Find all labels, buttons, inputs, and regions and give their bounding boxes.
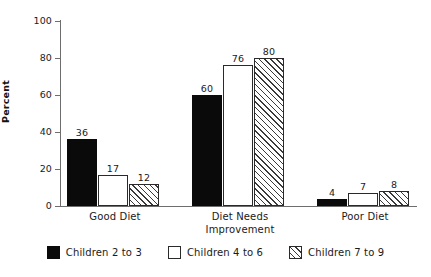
bar-good-diet-children-4-to-6[interactable]: 17 [98, 175, 128, 206]
bar-diet-needs-improvement-children-7-to-9[interactable]: 80 [254, 58, 284, 206]
bar-poor-diet-children-2-to-3[interactable]: 4 [317, 199, 347, 206]
bar-value-label: 60 [201, 84, 213, 94]
bar-good-diet-children-7-to-9[interactable]: 12 [129, 184, 159, 206]
open-swatch-icon [168, 246, 181, 259]
legend-label: Children 4 to 6 [187, 247, 263, 258]
x-axis-line [60, 206, 417, 207]
y-tick-label: 40 [18, 127, 52, 137]
plot-area: 36 17 12 60 76 80 4 [61, 21, 416, 206]
bar-value-label: 7 [360, 182, 366, 192]
x-axis-label-poor-diet: Poor Diet [317, 211, 413, 224]
bar-value-label: 8 [391, 180, 397, 190]
bar-value-label: 80 [263, 47, 275, 57]
bar-value-label: 36 [76, 128, 88, 138]
bar-value-label: 12 [138, 173, 150, 183]
x-axis-label-diet-needs-improvement: Diet Needs Improvement [192, 211, 288, 236]
bar-value-label: 4 [329, 188, 335, 198]
legend-label: Children 7 to 9 [308, 247, 384, 258]
y-tick-label: 20 [18, 164, 52, 174]
bar-poor-diet-children-7-to-9[interactable]: 8 [379, 191, 409, 206]
x-axis-label-good-diet: Good Diet [67, 211, 163, 224]
bar-poor-diet-children-4-to-6[interactable]: 7 [348, 193, 378, 206]
chart-legend: Children 2 to 3 Children 4 to 6 Children… [0, 246, 431, 259]
y-tick-label: 80 [18, 53, 52, 63]
legend-item-children-7-to-9[interactable]: Children 7 to 9 [289, 246, 384, 259]
x-axis-label-line: Poor Diet [317, 211, 413, 224]
bar-group-poor-diet: 4 7 8 [317, 21, 413, 206]
bar-value-label: 76 [232, 54, 244, 64]
bar-chart: Percent 100 80 60 40 20 0 36 17 [0, 0, 431, 277]
x-axis-label-line: Improvement [192, 224, 288, 237]
solid-swatch-icon [47, 246, 60, 259]
legend-item-children-2-to-3[interactable]: Children 2 to 3 [47, 246, 142, 259]
legend-label: Children 2 to 3 [66, 247, 142, 258]
bar-value-label: 17 [107, 164, 119, 174]
bar-diet-needs-improvement-children-4-to-6[interactable]: 76 [223, 65, 253, 206]
bar-group-good-diet: 36 17 12 [67, 21, 163, 206]
x-axis-label-line: Good Diet [67, 211, 163, 224]
y-axis-title: Percent [0, 80, 11, 123]
x-axis-label-line: Diet Needs [192, 211, 288, 224]
y-tick-label: 0 [18, 201, 52, 211]
bar-diet-needs-improvement-children-2-to-3[interactable]: 60 [192, 95, 222, 206]
y-tick-label: 60 [18, 90, 52, 100]
legend-item-children-4-to-6[interactable]: Children 4 to 6 [168, 246, 263, 259]
bar-group-diet-needs-improvement: 60 76 80 [192, 21, 288, 206]
bar-good-diet-children-2-to-3[interactable]: 36 [67, 139, 97, 206]
hatched-swatch-icon [289, 246, 302, 259]
y-tick-label: 100 [18, 16, 52, 26]
